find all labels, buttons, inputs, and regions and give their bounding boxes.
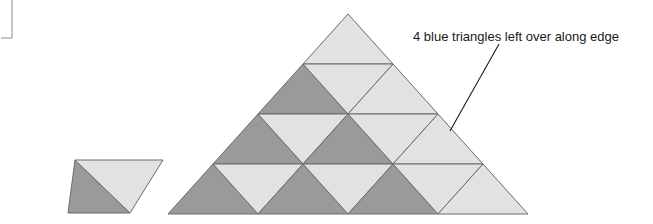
annotation-label: 4 blue triangles left over along edge <box>413 29 619 44</box>
figure-container: 4 blue triangles left over along edge <box>0 0 653 224</box>
triangle-tiling-figure: 4 blue triangles left over along edge <box>0 0 653 224</box>
